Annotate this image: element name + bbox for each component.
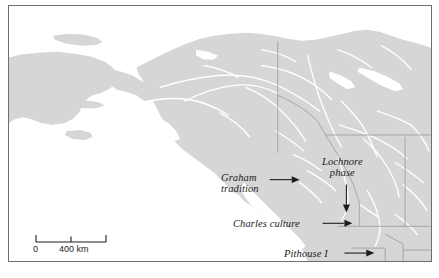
- annotation-graham-tradition-line1: Graham: [221, 172, 259, 183]
- annotation-pithouse-i-line1: Pithouse I: [284, 248, 328, 259]
- scale-label-min: 0: [33, 244, 38, 254]
- scale-bar: 0 400 km: [35, 234, 107, 256]
- annotation-graham-tradition: Graham tradition: [221, 172, 259, 194]
- scale-bar-ticks: [35, 234, 107, 244]
- annotation-graham-tradition-line2: tradition: [221, 183, 259, 194]
- scale-bar-labels: 0 400 km: [35, 244, 107, 256]
- annotation-charles-culture-line1: Charles culture: [233, 218, 300, 229]
- annotation-pithouse-i: Pithouse I: [284, 248, 328, 259]
- annotation-lochnore-phase-line1: Lochnore: [322, 156, 363, 167]
- annotation-lochnore-phase-line2: phase: [322, 167, 363, 178]
- scale-label-max: 400 km: [59, 244, 89, 254]
- annotation-charles-culture: Charles culture: [233, 218, 300, 229]
- annotation-lochnore-phase: Lochnore phase: [322, 156, 363, 178]
- map-canvas: [9, 6, 431, 261]
- map-frame: Graham tradition Lochnore phase Charles …: [8, 5, 432, 262]
- map-figure: Graham tradition Lochnore phase Charles …: [0, 0, 439, 278]
